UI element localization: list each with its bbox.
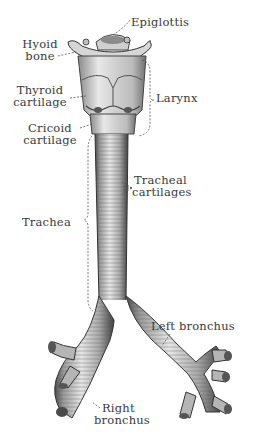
label-right-bronchus-line2: bronchus (94, 414, 150, 426)
label-larynx: Larynx (156, 92, 198, 104)
label-cricoid-cartilage-line2: cartilage (20, 134, 80, 146)
respiratory-anatomy-diagram: Epiglottis Hyoid bone Thyroid cartilage … (0, 0, 264, 442)
trachea-structure (95, 134, 128, 300)
bronchi-structure (48, 296, 232, 419)
label-thyroid-cartilage-line2: cartilage (10, 96, 70, 108)
label-left-bronchus: Left bronchus (151, 320, 235, 332)
label-hyoid-bone-line2: bone (20, 50, 60, 62)
cricoid-cartilage-structure (90, 114, 136, 134)
label-trachea: Trachea (22, 216, 71, 228)
label-epiglottis: Epiglottis (131, 16, 189, 28)
label-tracheal-cartilages-line2: cartilages (132, 186, 192, 198)
